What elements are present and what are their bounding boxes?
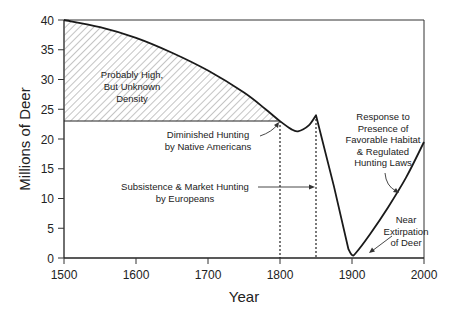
x-tick-label: 1700 xyxy=(195,268,222,282)
annotation-native-americans: Diminished Huntingby Native Americans xyxy=(165,129,252,152)
arrow-head-icon xyxy=(369,248,375,254)
annotation-line: Hunting Laws xyxy=(354,157,412,168)
x-tick-label: 1800 xyxy=(267,268,294,282)
y-tick-label: 0 xyxy=(47,252,54,266)
annotation-response: Response toPresence ofFavorable Habitat&… xyxy=(346,111,421,168)
annotation-line: Extirpation xyxy=(384,226,429,237)
y-tick-label: 15 xyxy=(41,162,55,176)
annotation-line: Probably High, xyxy=(101,69,163,80)
annotation-line: Presence of xyxy=(358,123,409,134)
y-ticks: 0510152025303540 xyxy=(41,14,64,266)
annotation-europeans: Subsistence & Market Huntingby Europeans xyxy=(121,181,249,204)
y-tick-label: 40 xyxy=(41,14,55,28)
annotation-extirpation: NearExtirpationof Deer xyxy=(384,214,429,248)
arrow-head-icon xyxy=(309,185,315,190)
deer-population-chart: 0510152025303540 15001600170018001900200… xyxy=(0,0,456,315)
arrow-response xyxy=(385,173,396,191)
x-axis-label: Year xyxy=(229,288,259,305)
annotation-line: of Deer xyxy=(390,237,421,248)
annotation-line: Diminished Hunting xyxy=(167,129,249,140)
annotation-line: Density xyxy=(116,93,148,104)
y-tick-label: 10 xyxy=(41,192,55,206)
x-ticks: 150016001700180019002000 xyxy=(51,258,438,282)
y-tick-label: 25 xyxy=(41,103,55,117)
annotation-line: Subsistence & Market Hunting xyxy=(121,181,249,192)
arrow-extirp xyxy=(372,236,392,251)
y-tick-label: 30 xyxy=(41,73,55,87)
annotation-line: But Unknown xyxy=(104,81,161,92)
y-tick-label: 35 xyxy=(41,43,55,57)
y-tick-label: 20 xyxy=(41,133,55,147)
x-tick-label: 1500 xyxy=(51,268,78,282)
x-tick-label: 1900 xyxy=(339,268,366,282)
annotation-line: by Native Americans xyxy=(165,141,252,152)
annotation-line: by Europeans xyxy=(156,193,215,204)
annotation-line: & Regulated xyxy=(357,146,409,157)
y-axis-label: Millions of Deer xyxy=(16,87,33,190)
shaded-region xyxy=(64,20,280,121)
x-tick-label: 2000 xyxy=(411,268,438,282)
y-tick-label: 5 xyxy=(47,222,54,236)
annotation-line: Near xyxy=(396,214,417,225)
annotation-line: Response to xyxy=(356,111,409,122)
annotation-line: Favorable Habitat xyxy=(346,134,421,145)
x-tick-label: 1600 xyxy=(123,268,150,282)
